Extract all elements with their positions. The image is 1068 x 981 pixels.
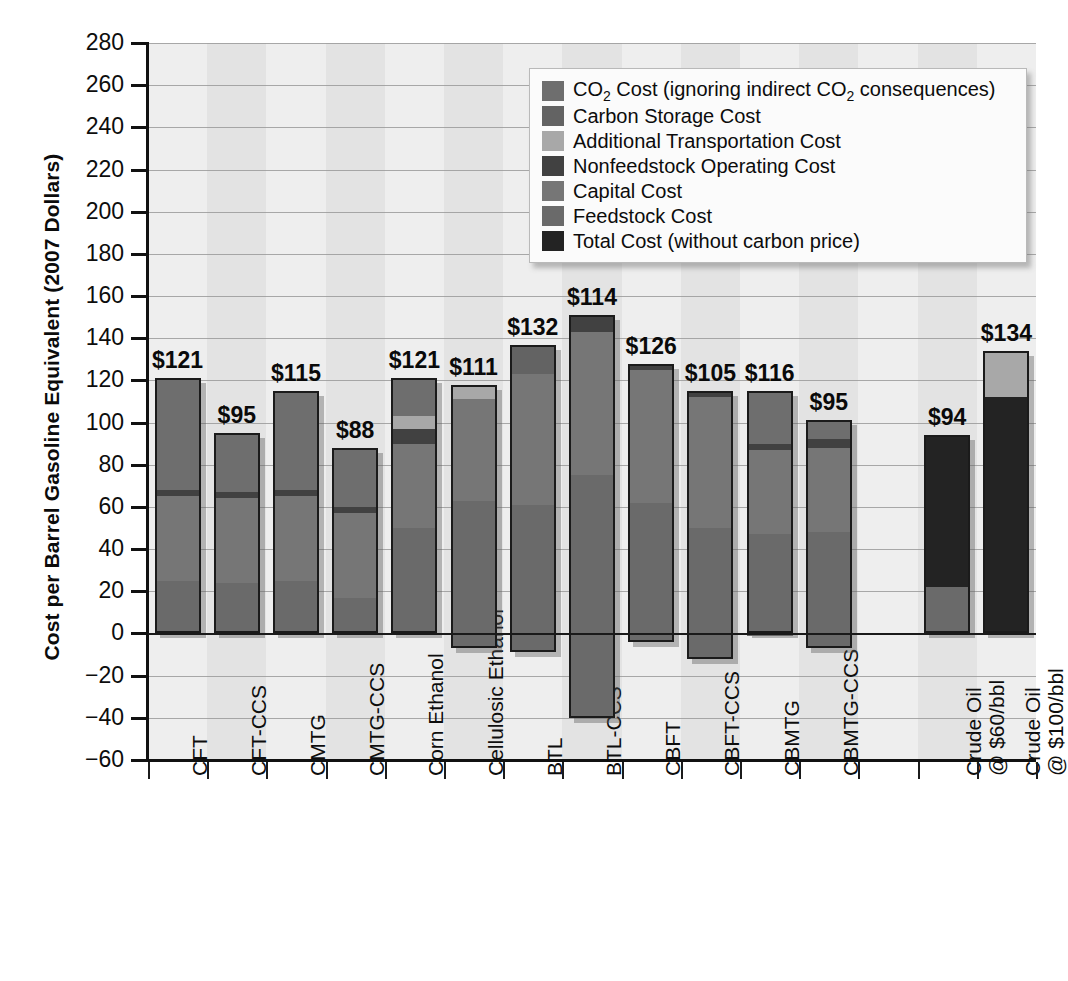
bar-Corn Ethanol[interactable]: [391, 378, 437, 633]
bar-BTL[interactable]: [510, 345, 556, 653]
legend-label-carbon-storage-cost: Carbon Storage Cost: [573, 106, 761, 126]
x-axis-tick: [503, 762, 505, 779]
x-axis-label-line: @ $100/bbl: [1045, 668, 1068, 776]
x-axis-tick: [622, 762, 624, 779]
x-axis-tick: [148, 762, 150, 779]
bar-segment: [451, 385, 497, 400]
bar-segment: [569, 633, 615, 717]
x-axis-tick: [740, 762, 742, 779]
bar-Cellulosic Ethanol[interactable]: [451, 385, 497, 649]
y-axis-label: −20: [32, 664, 124, 687]
bar-segment: [214, 498, 260, 582]
y-axis-label: 240: [32, 115, 124, 138]
bar-segment: [806, 448, 852, 532]
legend-label-capital-cost: Capital Cost: [573, 181, 682, 201]
y-axis-label: 60: [32, 495, 124, 518]
legend-label-feedstock-cost: Feedstock Cost: [573, 206, 712, 226]
legend-swatch-additional-transportation-cost: [542, 131, 564, 151]
legend-item-carbon-storage-cost[interactable]: Carbon Storage Cost: [542, 103, 1016, 128]
y-axis-label: 40: [32, 537, 124, 560]
y-axis-label: 160: [32, 284, 124, 307]
bar-segment: [391, 378, 437, 416]
bar-Crude Oil @ $60/bbl[interactable]: [924, 435, 970, 633]
y-axis-label: 180: [32, 242, 124, 265]
bar-value-label: $115: [251, 360, 341, 387]
legend-swatch-nonfeedstock-operating-cost: [542, 156, 564, 176]
y-axis-tick: [131, 169, 149, 172]
bar-segment: [687, 397, 733, 528]
bar-CBFT-CCS[interactable]: [687, 391, 733, 659]
bar-segment: [983, 351, 1029, 397]
x-axis-label-line: CMTG-CCS: [365, 663, 389, 776]
legend-item-total-cost[interactable]: Total Cost (without carbon price): [542, 228, 1016, 253]
x-axis-tick: [562, 762, 564, 779]
bar-segment: [510, 374, 556, 505]
legend-item-nonfeedstock-operating-cost[interactable]: Nonfeedstock Operating Cost: [542, 153, 1016, 178]
x-axis-tick: [266, 762, 268, 779]
y-axis-label: 100: [32, 411, 124, 434]
y-axis-label: 260: [32, 73, 124, 96]
bar-segment: [510, 623, 556, 653]
bar-segment: [747, 450, 793, 534]
y-axis-label: −60: [32, 748, 124, 771]
bar-Crude Oil @ $100/bbl[interactable]: [983, 351, 1029, 634]
legend-item-additional-transportation-cost[interactable]: Additional Transportation Cost: [542, 128, 1016, 153]
bar-segment: [569, 475, 615, 633]
bar-segment: [391, 416, 437, 429]
bar-segment: [806, 532, 852, 621]
legend-label-total-cost: Total Cost (without carbon price): [573, 231, 860, 251]
legend-item-co2-cost[interactable]: CO2 Cost (ignoring indirect CO2 conseque…: [542, 78, 1016, 103]
legend-label-nonfeedstock-operating-cost: Nonfeedstock Operating Cost: [573, 156, 835, 176]
y-axis-label: 200: [32, 200, 124, 223]
y-axis-tick: [131, 675, 149, 678]
y-axis-tick: [131, 379, 149, 382]
y-axis-line: [146, 43, 149, 761]
bar-segment: [332, 513, 378, 597]
x-axis-label: CBFT-CCS: [720, 671, 744, 776]
y-axis-label: 220: [32, 158, 124, 181]
y-axis-label: 20: [32, 579, 124, 602]
x-axis-tick: [858, 762, 860, 779]
x-axis-label: Crude Oil@ $60/bbl: [963, 680, 1008, 776]
bar-segment: [332, 598, 378, 634]
y-axis-tick: [131, 211, 149, 214]
bar-segment: [155, 378, 201, 490]
bar-segment: [391, 528, 437, 633]
x-axis-label: Crude Oil@ $100/bbl: [1022, 668, 1067, 776]
plot-band: [326, 43, 385, 760]
bar-segment: [687, 633, 733, 658]
bar-CBMTG[interactable]: [747, 391, 793, 634]
legend-swatch-feedstock-cost: [542, 206, 564, 226]
bar-CBFT[interactable]: [628, 364, 674, 642]
legend-label-additional-transportation-cost: Additional Transportation Cost: [573, 131, 841, 151]
x-axis-label: Corn Ethanol: [424, 653, 448, 776]
x-axis-tick: [977, 762, 979, 779]
bar-segment: [451, 399, 497, 500]
y-axis-tick: [131, 590, 149, 593]
x-axis-label-line: CBMTG-CCS: [839, 649, 863, 776]
bar-segment: [628, 629, 674, 642]
bar-BTL-CCS[interactable]: [569, 315, 615, 718]
bar-value-label: $114: [547, 284, 637, 311]
bar-segment: [214, 583, 260, 634]
y-axis-label: −40: [32, 706, 124, 729]
y-axis-tick: [131, 506, 149, 509]
bar-segment: [155, 496, 201, 580]
legend-item-feedstock-cost[interactable]: Feedstock Cost: [542, 203, 1016, 228]
y-axis-tick: [131, 337, 149, 340]
y-axis-tick: [131, 422, 149, 425]
legend-item-capital-cost[interactable]: Capital Cost: [542, 178, 1016, 203]
bar-CFT-CCS[interactable]: [214, 433, 260, 633]
bar-CBMTG-CCS[interactable]: [806, 420, 852, 648]
bar-segment: [510, 345, 556, 375]
x-axis-label: CBMTG-CCS: [839, 649, 863, 776]
bar-segment: [806, 439, 852, 447]
x-axis-tick: [385, 762, 387, 779]
bar-value-label: $111: [429, 354, 519, 381]
bar-segment: [391, 444, 437, 528]
bar-CMTG-CCS[interactable]: [332, 448, 378, 634]
bar-segment: [687, 528, 733, 633]
x-axis-label-line: Corn Ethanol: [424, 653, 448, 776]
bar-segment: [628, 370, 674, 503]
